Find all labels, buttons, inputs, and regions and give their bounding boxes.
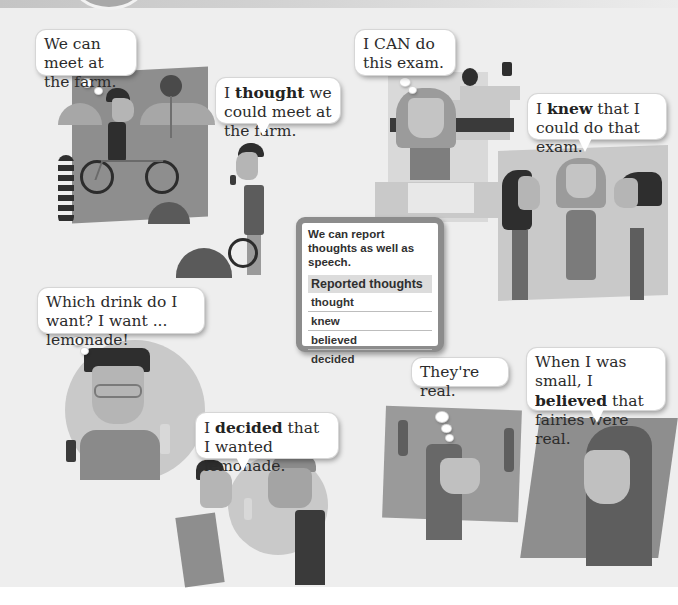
- center-woman-face: [566, 164, 596, 198]
- speech-verb-bold: decided: [215, 418, 283, 437]
- right-man-body: [295, 510, 325, 585]
- glasses-man-body: [80, 430, 160, 480]
- speech-bubble-fairies: When I was small, I believed that fairie…: [527, 348, 665, 410]
- lemonade-bottle-icon: [160, 424, 170, 454]
- thought-text: We can meet at the farm.: [44, 35, 116, 91]
- girl-face: [440, 458, 480, 494]
- exam-girl-body: [410, 148, 450, 180]
- woman-face: [584, 450, 630, 504]
- thought-dot: [409, 87, 416, 93]
- speech-text-prefix: I: [204, 419, 215, 437]
- fairy-left: [398, 420, 408, 456]
- phone-icon: [66, 440, 76, 462]
- speech-text-prefix: When I was small, I: [535, 353, 627, 390]
- grammar-row: believed: [308, 331, 432, 350]
- tree-top: [160, 75, 182, 97]
- speech-bubble-exam: I knew that I could do that exam.: [528, 94, 666, 139]
- grammar-intro: We can report thoughts as well as speech…: [308, 227, 432, 269]
- speech-tail: [256, 122, 270, 136]
- speech-bubble-farm: I thought we could meet at the farm.: [216, 78, 340, 123]
- student-desk: [460, 86, 520, 100]
- thought-bubble-drink: Which drink do I want? I want ... lemona…: [38, 288, 204, 333]
- cyclist-face: [112, 98, 134, 122]
- grammar-table-header: Reported thoughts: [308, 275, 432, 293]
- thought-bubble-exam: I CAN do this exam.: [355, 30, 455, 75]
- cyclist-body: [108, 122, 126, 162]
- speech-verb-bold: thought: [235, 83, 304, 102]
- speaker-phone: [230, 175, 236, 185]
- left-woman-face: [518, 176, 540, 210]
- speech-text-prefix: I: [536, 100, 547, 118]
- right-woman-body: [630, 228, 644, 300]
- speaker-bike-wheel-icon: [228, 238, 258, 268]
- fern-plant: [58, 155, 74, 225]
- student-girl-head: [462, 68, 478, 86]
- thought-dot: [400, 78, 410, 86]
- exam-paper: [408, 183, 474, 213]
- thought-text: I CAN do this exam.: [363, 35, 444, 72]
- thought-dot: [446, 435, 453, 441]
- tree-trunk: [170, 96, 172, 138]
- speech-tail: [590, 409, 604, 423]
- speaker-body: [244, 185, 264, 235]
- student-boy-head: [502, 62, 512, 76]
- speech-bubble-drink: I decided that I wanted lemonade.: [196, 413, 338, 458]
- bush-right: [140, 103, 215, 125]
- grammar-row: knew: [308, 312, 432, 331]
- speaker-face: [236, 152, 258, 180]
- left-woman-body: [512, 230, 528, 300]
- glasses-icon: [94, 384, 142, 398]
- thought-bubble-farm: We can meet at the farm.: [36, 30, 136, 75]
- exam-girl-face: [408, 98, 444, 138]
- bike-frame: [94, 160, 163, 180]
- speech-verb-bold: believed: [535, 391, 607, 410]
- thought-dot: [436, 412, 448, 422]
- speech-verb-bold: knew: [547, 99, 592, 118]
- right-woman-face: [614, 178, 638, 208]
- speech-tail: [236, 457, 250, 471]
- speech-text-prefix: I: [224, 84, 235, 102]
- grammar-row: thought: [308, 293, 432, 312]
- grammar-box: We can report thoughts as well as speech…: [296, 217, 444, 352]
- speech-tail: [578, 138, 592, 152]
- lemonade-bottle-icon: [244, 498, 252, 520]
- fairy-right: [504, 428, 514, 472]
- grammar-row: decided: [308, 350, 432, 369]
- center-woman-dress: [566, 210, 596, 280]
- thought-dot: [442, 425, 451, 432]
